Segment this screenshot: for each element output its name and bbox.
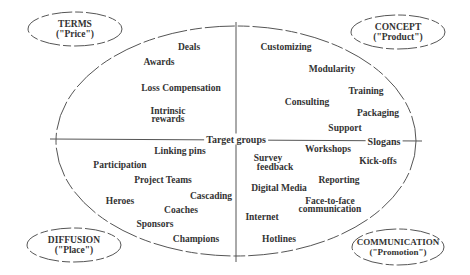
item-hotlines: Hotlines <box>262 235 296 244</box>
category-diffusion: DIFFUSION ("Place") <box>48 235 100 255</box>
category-diffusion-title: DIFFUSION <box>48 235 100 245</box>
item-coaches: Coaches <box>164 206 198 215</box>
category-concept-title: CONCEPT <box>373 22 422 32</box>
category-concept-subtitle: ("Product") <box>373 32 422 42</box>
item-champions: Champions <box>173 235 219 244</box>
item-packaging: Packaging <box>357 109 399 118</box>
item-support: Support <box>328 124 361 133</box>
item-loss-compensation: Loss Compensation <box>141 84 220 93</box>
category-concept: CONCEPT ("Product") <box>373 22 422 42</box>
item-sponsors: Sponsors <box>137 220 174 229</box>
item-reporting: Reporting <box>318 176 359 185</box>
item-customizing: Customizing <box>260 43 311 52</box>
item-feedback: feedback <box>257 163 293 172</box>
item-linking-pins: Linking pins <box>154 147 206 156</box>
category-communication: COMMUNICATION ("Promotion") <box>357 237 439 257</box>
item-internet: Internet <box>245 213 278 222</box>
item-deals: Deals <box>178 43 200 52</box>
category-terms-subtitle: ("Price") <box>56 29 94 39</box>
item-rewards: rewards <box>151 115 184 124</box>
item-training: Training <box>348 87 383 96</box>
axis-label-slogans: Slogans <box>366 136 403 147</box>
category-terms-title: TERMS <box>56 19 94 29</box>
item-cascading: Cascading <box>190 192 232 201</box>
category-terms: TERMS ("Price") <box>56 19 94 39</box>
item-awards: Awards <box>144 58 175 67</box>
category-diffusion-subtitle: ("Place") <box>48 245 100 255</box>
item-heroes: Heroes <box>106 197 134 206</box>
item-communication: communication <box>299 205 362 214</box>
axis-label-target-groups: Target groups <box>204 134 268 145</box>
item-modularity: Modularity <box>309 65 355 74</box>
item-project-teams: Project Teams <box>134 176 192 185</box>
item-consulting: Consulting <box>285 98 329 107</box>
item-digital-media: Digital Media <box>251 184 307 193</box>
category-communication-subtitle: ("Promotion") <box>357 247 439 257</box>
item-workshops: Workshops <box>305 145 351 154</box>
category-communication-title: COMMUNICATION <box>357 237 439 247</box>
item-participation: Participation <box>93 161 146 170</box>
item-kick-offs: Kick-offs <box>359 157 396 166</box>
